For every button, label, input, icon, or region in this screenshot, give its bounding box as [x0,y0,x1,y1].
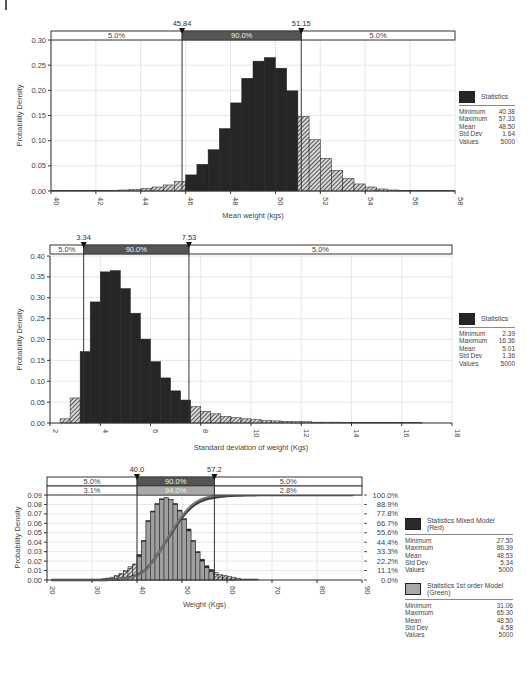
svg-text:57.2: 57.2 [207,465,222,474]
chart-weight-plot: 0.0%11.1%22.2%33.3%44.4%55.6%66.7%77.8%8… [0,465,527,694]
svg-text:Mean weight (kgs): Mean weight (kgs) [222,211,284,220]
svg-text:10: 10 [252,429,261,437]
svg-text:5.0%: 5.0% [83,477,100,486]
svg-text:0.35: 0.35 [30,272,45,281]
svg-text:0.15: 0.15 [30,356,45,365]
svg-text:40: 40 [138,586,147,594]
stat-row: Mean48.53 [405,552,513,559]
svg-text:3.34: 3.34 [76,233,91,242]
svg-text:18: 18 [453,429,462,437]
chart-mean-weight: 0.000.050.100.150.200.250.30404244464850… [0,0,527,225]
svg-text:40.0: 40.0 [130,465,145,474]
legend-statistics: Statistics Minimum2.39 Maximum16.36 Mean… [459,313,515,367]
svg-text:46: 46 [186,197,195,205]
svg-text:Probability Density: Probability Density [15,84,24,146]
svg-text:Probability Density: Probability Density [15,308,24,370]
svg-text:50: 50 [183,586,192,594]
svg-text:3.1%: 3.1% [83,486,100,495]
svg-text:0.09: 0.09 [27,491,42,500]
svg-text:5.0%: 5.0% [280,477,297,486]
svg-text:5.0%: 5.0% [108,31,125,40]
stat-row: Minimum31.06 [405,602,513,609]
svg-text:11.1%: 11.1% [377,566,398,575]
svg-text:51.15: 51.15 [292,19,311,28]
stat-row: Std Dev5.34 [405,559,513,566]
svg-text:5.0%: 5.0% [370,31,387,40]
svg-text:0.00: 0.00 [27,576,42,585]
stat-row: Minimum40.38 [459,108,515,115]
svg-text:5.0%: 5.0% [312,245,329,254]
stat-row: Maximum65.30 [405,609,513,616]
stat-row: Mean48.50 [405,617,513,624]
svg-text:7.53: 7.53 [182,233,197,242]
legend-swatch-icon [405,518,421,530]
svg-text:2: 2 [51,429,60,433]
legend-title: Statistics Mixed Model (Red) [427,517,513,532]
svg-text:42: 42 [96,197,105,205]
svg-text:48: 48 [231,197,240,205]
svg-text:50: 50 [276,197,285,205]
stat-row: Std Dev1.64 [459,130,515,137]
svg-text:0.30: 0.30 [31,36,46,45]
svg-text:0.00: 0.00 [30,419,45,428]
svg-text:90.0%: 90.0% [165,477,187,486]
stat-row: Values5000 [405,631,513,638]
svg-text:44: 44 [141,197,150,205]
svg-text:40: 40 [52,197,61,205]
stat-row: Minimum2.39 [459,330,515,337]
chart-std-dev-weight-plot: 0.000.050.100.150.200.250.300.350.402468… [0,225,527,465]
legend-mixed-model: Statistics Mixed Model (Red) Minimum27.5… [405,517,513,574]
svg-text:4: 4 [101,429,110,433]
legend-swatch-icon [459,313,475,325]
svg-text:55.6%: 55.6% [377,528,399,537]
svg-text:Standard deviation of weight (: Standard deviation of weight (Kgs) [194,443,309,452]
svg-text:16: 16 [402,429,411,437]
svg-text:0.05: 0.05 [27,528,42,537]
svg-text:90.0%: 90.0% [231,31,253,40]
legend-title: Statistics [481,93,508,100]
svg-text:88.9%: 88.9% [377,500,399,509]
svg-text:58: 58 [456,197,465,205]
svg-text:0.30: 0.30 [30,293,45,302]
svg-text:66.7%: 66.7% [377,519,399,528]
legend-title: Statistics [481,315,508,322]
legend-swatch-icon [459,91,475,103]
stat-row: Maximum57.33 [459,115,515,122]
svg-text:54: 54 [366,197,375,205]
svg-text:0.03: 0.03 [27,547,42,556]
stat-row: Std Dev1.36 [459,352,515,359]
svg-text:12: 12 [302,429,311,437]
svg-text:100.0%: 100.0% [373,491,399,500]
svg-text:Weight (Kgs): Weight (Kgs) [183,600,227,609]
stat-row: Mean5.01 [459,345,515,352]
chart-weight: 0.0%11.1%22.2%33.3%44.4%55.6%66.7%77.8%8… [0,465,527,694]
svg-text:56: 56 [411,197,420,205]
svg-text:0.02: 0.02 [27,557,42,566]
svg-text:14: 14 [352,429,361,437]
svg-text:44.4%: 44.4% [377,538,399,547]
svg-text:6: 6 [151,429,160,433]
stat-row: Maximum86.39 [405,544,513,551]
svg-text:0.15: 0.15 [31,111,46,120]
chart-std-dev-weight: 0.000.050.100.150.200.250.300.350.402468… [0,225,527,465]
svg-text:0.04: 0.04 [27,538,42,547]
svg-text:5.0%: 5.0% [58,245,75,254]
legend-statistics: Statistics Minimum40.38 Maximum57.33 Mea… [459,91,515,145]
svg-text:8: 8 [201,429,210,433]
svg-text:60: 60 [228,586,237,594]
svg-text:0.0%: 0.0% [381,576,398,585]
svg-text:70: 70 [273,586,282,594]
svg-text:45.84: 45.84 [173,19,192,28]
stat-row: Mean48.50 [459,123,515,130]
svg-text:90: 90 [363,586,372,594]
svg-text:94.0%: 94.0% [165,486,187,495]
svg-text:0.05: 0.05 [30,398,45,407]
svg-text:77.8%: 77.8% [377,509,399,518]
stat-row: Maximum16.36 [459,337,515,344]
stat-row: Values5000 [459,360,515,367]
chart-mean-weight-plot: 0.000.050.100.150.200.250.30404244464850… [0,0,527,225]
svg-text:2.8%: 2.8% [280,486,297,495]
svg-text:0.25: 0.25 [30,314,45,323]
svg-text:80: 80 [318,586,327,594]
stat-row: Std Dev4.58 [405,624,513,631]
